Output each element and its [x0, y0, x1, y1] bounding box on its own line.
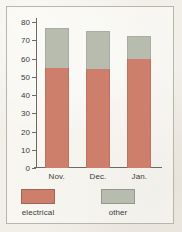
y-axis-tick — [32, 40, 36, 41]
legend-item-electrical: electrical — [14, 189, 62, 217]
y-axis-tick — [32, 77, 36, 78]
y-axis-tick-label: 20 — [21, 127, 30, 136]
plot-area: 01020304050607080 Nov.Dec.Jan. — [36, 22, 160, 168]
bar-segment-other — [86, 31, 110, 68]
y-axis-tick — [32, 113, 36, 114]
bar-dec — [86, 31, 110, 168]
y-axis-tick-label: 80 — [21, 18, 30, 27]
y-axis-tick-label: 70 — [21, 36, 30, 45]
legend-swatch-electrical — [21, 189, 55, 204]
x-axis-label-nov: Nov. — [37, 172, 77, 181]
x-axis-label-dec: Dec. — [78, 172, 118, 181]
x-axis-label-jan: Jan. — [119, 172, 159, 181]
y-axis-tick-label: 40 — [21, 91, 30, 100]
y-axis-tick-label: 0 — [25, 164, 30, 173]
y-axis-tick — [32, 168, 36, 169]
bar-segment-other — [45, 28, 69, 67]
y-axis-tick — [32, 22, 36, 23]
bar-segment-electrical — [86, 69, 110, 168]
y-axis-tick — [32, 150, 36, 151]
bar-jan — [127, 36, 151, 168]
legend-swatch-other — [101, 189, 135, 204]
bar-nov — [45, 28, 69, 168]
legend-label-other: other — [94, 208, 142, 217]
stacked-bar-chart-figure: 01020304050607080 Nov.Dec.Jan. electrica… — [0, 0, 182, 232]
bar-segment-electrical — [45, 68, 69, 168]
y-axis-tick-label: 30 — [21, 109, 30, 118]
y-axis-tick — [32, 95, 36, 96]
legend-label-electrical: electrical — [14, 208, 62, 217]
chart-legend: electricalother — [14, 189, 166, 223]
y-axis-tick — [32, 59, 36, 60]
bar-segment-electrical — [127, 59, 151, 169]
y-axis-tick — [32, 132, 36, 133]
y-axis-tick-label: 60 — [21, 54, 30, 63]
bar-segment-other — [127, 36, 151, 59]
y-axis-line — [36, 18, 37, 168]
legend-item-other: other — [94, 189, 142, 217]
y-axis-tick-label: 50 — [21, 72, 30, 81]
y-axis-tick-label: 10 — [21, 145, 30, 154]
